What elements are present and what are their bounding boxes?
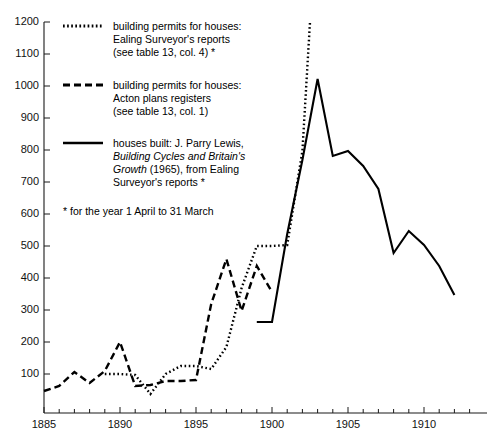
chart-svg: 1200 1100 1000 900 800 700 600 500 400 3… [0,0,491,447]
legend-acton-line-1: building permits for houses: [113,79,241,91]
y-axis-ticks [44,22,50,374]
series-acton-plans-registers [44,259,272,391]
legend-footnote: * for the year 1 April to 31 March [63,205,214,217]
y-tick-label-200: 200 [21,335,39,347]
series-houses-built [257,79,455,322]
x-axis-labels: 1885 1890 1895 1900 1905 1910 [32,418,436,430]
legend-entry-houses-built: houses built: J. Parry Lewis, Building C… [63,137,246,188]
y-tick-label-100: 100 [21,367,39,379]
legend-houses-built-line-2: Building Cycles and Britain's [113,150,246,162]
legend-acton-line-3: (see table 13, col. 1) [113,105,208,117]
x-tick-label-1900: 1900 [260,418,284,430]
legend-entry-ealing: building permits for houses: Ealing Surv… [63,20,241,58]
y-tick-label-300: 300 [21,303,39,315]
legend-ealing-line-1: building permits for houses: [113,20,241,32]
y-tick-label-500: 500 [21,239,39,251]
y-tick-label-700: 700 [21,175,39,187]
y-tick-label-800: 800 [21,143,39,155]
x-tick-label-1905: 1905 [336,418,360,430]
y-tick-label-1200: 1200 [15,15,39,27]
x-axis-ticks [44,407,470,413]
legend-entry-acton: building permits for houses: Acton plans… [63,79,241,117]
x-tick-label-1895: 1895 [184,418,208,430]
legend-acton-line-2: Acton plans registers [113,92,211,104]
legend-ealing-line-3: (see table 13, col. 4) * [113,46,215,58]
y-tick-label-1100: 1100 [15,47,39,59]
legend-houses-built-line-1: houses built: J. Parry Lewis, [113,137,244,149]
y-axis-labels: 1200 1100 1000 900 800 700 600 500 400 3… [15,15,39,379]
legend: building permits for houses: Ealing Surv… [63,20,246,217]
y-tick-label-900: 900 [21,111,39,123]
x-tick-label-1890: 1890 [108,418,132,430]
x-tick-label-1910: 1910 [412,418,436,430]
y-tick-label-1000: 1000 [15,79,39,91]
y-tick-label-600: 600 [21,207,39,219]
legend-houses-built-line-3: Growth (1965), from Ealing [113,163,239,175]
x-tick-label-1885: 1885 [32,418,56,430]
legend-houses-built-line-4: Surveyor's reports * [113,176,205,188]
y-axis: 1200 1100 1000 900 800 700 600 500 400 3… [15,15,50,413]
y-tick-label-400: 400 [21,271,39,283]
chart-figure: 1200 1100 1000 900 800 700 600 500 400 3… [0,0,491,447]
legend-ealing-line-2: Ealing Surveyor's reports [113,33,230,45]
x-axis: 1885 1890 1895 1900 1905 1910 [32,407,487,430]
